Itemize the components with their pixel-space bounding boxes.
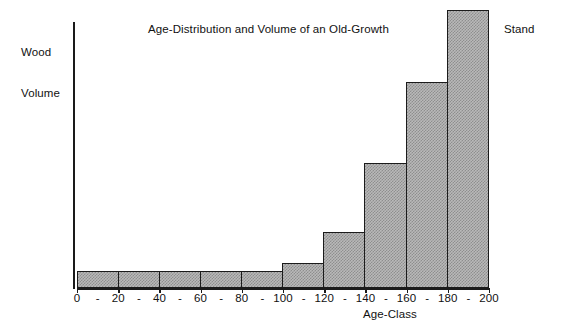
y-axis-label: Wood Volume [21,19,60,127]
x-axis-tick-label: 60 [194,291,207,306]
x-axis-label: Age-Class [363,307,417,321]
x-axis-tick-label: 200 [479,291,499,306]
x-axis-tick-label: 100 [273,291,293,306]
chart-screenshot: Wood Volume Age-Distribution and Volume … [0,0,565,335]
x-axis-tick-label: 40 [153,291,166,306]
x-axis-tick-separator: - [302,291,306,306]
bar [447,10,489,288]
bar [200,271,242,288]
bar [282,263,324,288]
bar [364,163,406,288]
x-axis-tick-separator: - [96,291,100,306]
x-axis-tick-labels: 0-20-40-60-80-100-120-140-160-180-200 [0,291,565,309]
x-axis-tick-separator: - [466,291,470,306]
x-axis-tick-separator: - [384,291,388,306]
x-axis-tick-label: 160 [397,291,417,306]
x-axis-tick-separator: - [425,291,429,306]
x-axis-tick-label: 20 [112,291,125,306]
bar [118,271,160,288]
bar [159,271,201,288]
x-axis-tick-label: 0 [74,291,81,306]
bar [406,82,448,288]
plot-area [77,10,489,288]
bar [77,271,119,288]
x-axis-tick-separator: - [343,291,347,306]
chart-title-continuation: Stand [504,22,535,36]
x-axis-tick-label: 180 [438,291,458,306]
x-axis-tick-label: 80 [235,291,248,306]
bar-series [77,10,489,288]
x-axis-tick-label: 140 [356,291,376,306]
y-axis-line [73,22,75,289]
x-axis-tick-separator: - [137,291,141,306]
y-axis-label-line-2: Volume [21,87,60,101]
y-axis-label-line-1: Wood [21,46,60,60]
x-axis-tick-separator: - [178,291,182,306]
bar [323,232,365,288]
x-axis-tick-separator: - [219,291,223,306]
x-axis-tick-separator: - [260,291,264,306]
x-axis-tick-label: 120 [314,291,334,306]
bar [241,271,283,288]
